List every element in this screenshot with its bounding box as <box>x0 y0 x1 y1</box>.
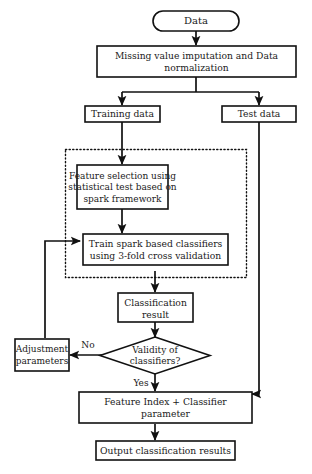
node-adjustment-label-line1: Adjustment <box>15 344 69 354</box>
node-validity-label-line1: Validity of <box>131 345 178 355</box>
caption-strip <box>0 462 312 474</box>
node-classification-result-label-line1: Classification <box>124 297 187 308</box>
node-feature-index[interactable]: Feature Index + Classifier parameter <box>79 392 252 423</box>
node-feature-index-label-line1: Feature Index + Classifier <box>104 396 227 407</box>
node-adjustment-label-line2: parameters <box>16 356 69 366</box>
node-feature-index-label-line2: parameter <box>141 408 191 419</box>
node-preprocess-label-line1: Missing value imputation and Data <box>115 50 279 61</box>
node-output[interactable]: Output classification results <box>96 441 235 460</box>
edge-label-no: No <box>81 340 94 350</box>
node-train-classifiers-label-line1: Train spark based classifiers <box>89 238 223 249</box>
node-training-data[interactable]: Training data <box>85 106 160 122</box>
flowchart-svg: Data Missing value imputation and Data n… <box>0 0 312 474</box>
node-preprocess[interactable]: Missing value imputation and Data normal… <box>97 46 296 77</box>
edge-label-yes: Yes <box>132 378 148 388</box>
node-train-classifiers-label-line2: using 3-fold cross validation <box>90 250 221 261</box>
node-feature-selection-label-line3: spark framework <box>83 194 162 204</box>
node-preprocess-label-line2: normalization <box>164 62 228 73</box>
edge-adjustment-feedback-loop <box>45 241 80 338</box>
node-classification-result-label-line2: result <box>142 309 169 320</box>
node-adjustment-parameters[interactable]: Adjustment parameters <box>15 339 69 371</box>
node-feature-selection-label-line1: Feature selection using <box>69 171 176 181</box>
node-test-data[interactable]: Test data <box>222 106 296 122</box>
node-test-data-label: Test data <box>238 108 281 119</box>
node-data[interactable]: Data <box>153 11 239 31</box>
edge-test-data-to-feature-index <box>252 122 259 394</box>
node-validity-decision[interactable]: Validity of classifiers? <box>100 337 210 374</box>
node-train-classifiers[interactable]: Train spark based classifiers using 3-fo… <box>83 234 228 265</box>
node-validity-label-line2: classifiers? <box>130 356 181 366</box>
flowchart-root: Data Missing value imputation and Data n… <box>0 0 312 474</box>
node-classification-result[interactable]: Classification result <box>118 293 193 322</box>
node-output-label: Output classification results <box>100 445 231 456</box>
node-training-data-label: Training data <box>91 108 155 119</box>
node-feature-selection[interactable]: Feature selection using statistical test… <box>68 165 177 209</box>
nodes-layer: Data Missing value imputation and Data n… <box>15 11 296 460</box>
node-data-label: Data <box>184 15 208 26</box>
node-feature-selection-label-line2: statistical test based on <box>68 182 177 192</box>
